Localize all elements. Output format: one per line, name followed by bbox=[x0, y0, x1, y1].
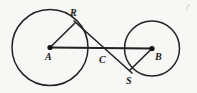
point-label-B: B bbox=[155, 52, 162, 62]
segment-AB-centerline bbox=[50, 48, 152, 49]
scan-artifact-icon bbox=[186, 4, 191, 11]
point-label-A: A bbox=[45, 52, 52, 62]
geometry-figure: A B C R S bbox=[0, 0, 197, 93]
segment-BS-radius bbox=[130, 49, 152, 71]
geometry-canvas bbox=[0, 0, 197, 93]
point-A-dot bbox=[47, 45, 52, 50]
point-label-R: R bbox=[70, 8, 77, 18]
segment-AR-radius bbox=[50, 23, 75, 48]
point-label-C: C bbox=[99, 55, 106, 65]
point-label-S: S bbox=[126, 76, 132, 86]
point-B-dot bbox=[149, 46, 154, 51]
